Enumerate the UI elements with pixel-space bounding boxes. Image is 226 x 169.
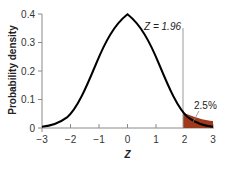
y-tick-labels: 0 0.1 0.2 0.3 0.4 — [21, 9, 35, 134]
svg-text:0: 0 — [125, 134, 131, 145]
svg-text:2: 2 — [182, 134, 188, 145]
svg-text:−3: −3 — [36, 134, 48, 145]
svg-text:0.1: 0.1 — [21, 94, 35, 105]
svg-text:0.3: 0.3 — [21, 37, 35, 48]
x-axis-label: Z — [123, 149, 131, 160]
y-axis-label: Probability density — [7, 25, 18, 115]
normal-curve — [42, 14, 213, 127]
svg-text:0: 0 — [29, 123, 35, 134]
svg-text:−1: −1 — [93, 134, 105, 145]
svg-text:3: 3 — [210, 134, 216, 145]
z-critical-label: Z = 1.96 — [143, 21, 181, 32]
x-tick-labels: −3 −2 −1 0 1 2 3 — [36, 134, 216, 145]
svg-text:1: 1 — [153, 134, 159, 145]
y-ticks — [38, 14, 42, 128]
normal-distribution-chart: Probability density 0 0.1 0.2 0.3 0.4 −3… — [0, 0, 226, 169]
svg-text:0.4: 0.4 — [21, 9, 35, 20]
svg-text:−2: −2 — [65, 134, 77, 145]
tail-percentage-label: 2.5% — [194, 100, 217, 111]
svg-text:0.2: 0.2 — [21, 66, 35, 77]
